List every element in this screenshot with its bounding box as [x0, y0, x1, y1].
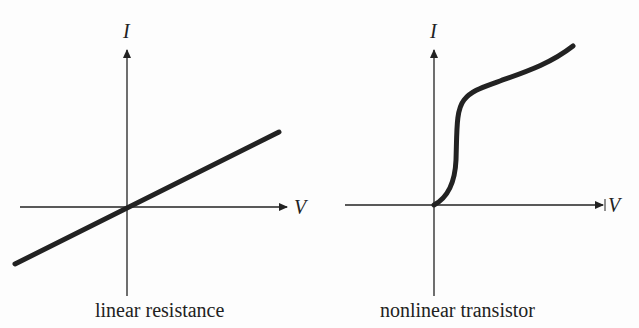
- left-x-axis-label: V: [294, 196, 309, 218]
- linear-resistance-diagram: I V linear resistance: [15, 20, 309, 321]
- right-y-axis-label: I: [429, 20, 438, 42]
- linear-iv-curve: [15, 132, 279, 264]
- left-caption: linear resistance: [95, 299, 224, 321]
- left-y-axis-label: I: [122, 20, 131, 42]
- right-x-axis-label: V: [608, 194, 623, 216]
- nonlinear-iv-curve: [434, 46, 573, 205]
- right-caption: nonlinear transistor: [380, 299, 535, 321]
- nonlinear-transistor-diagram: I V nonlinear transistor: [345, 20, 623, 321]
- figure-svg: I V linear resistance I V nonlinear tran…: [0, 0, 639, 328]
- iv-characteristics-figure: I V linear resistance I V nonlinear tran…: [0, 0, 639, 328]
